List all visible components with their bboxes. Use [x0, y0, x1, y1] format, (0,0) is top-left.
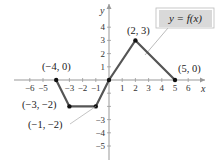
- point-label: (−4, 0): [42, 61, 71, 73]
- y-tick-label: −4: [95, 128, 105, 138]
- x-tick-label: −5: [38, 83, 48, 93]
- x-tick-label: 2: [133, 83, 138, 93]
- x-tick-label: −1: [91, 83, 101, 93]
- point-label: (2, 3): [127, 25, 150, 37]
- function-graph: xy −6−5−3−2−11234564321−3−4−5 y = f(x) (…: [0, 0, 219, 167]
- ticks: −6−5−3−2−11234564321−3−4−5: [25, 22, 191, 151]
- x-tick-label: −2: [78, 83, 88, 93]
- x-tick-label: 4: [160, 83, 165, 93]
- legend-label: y = f(x): [168, 12, 202, 25]
- y-tick-label: 2: [101, 49, 106, 59]
- y-tick-label: −3: [95, 115, 105, 125]
- data-point: [54, 78, 58, 82]
- point-label: (−1, −2): [28, 119, 63, 131]
- annotation-callout-line: [70, 106, 96, 124]
- y-axis-arrow-icon: [107, 4, 112, 9]
- data-point: [173, 78, 177, 82]
- point-label: (−3, −2): [22, 99, 57, 111]
- x-axis-arrow-icon: [200, 78, 205, 83]
- data-point: [107, 78, 111, 82]
- plot-line: [54, 38, 177, 108]
- y-tick-label: 3: [101, 35, 106, 45]
- x-tick-label: 6: [186, 83, 191, 93]
- y-tick-label: −5: [95, 141, 105, 151]
- data-point: [133, 38, 137, 42]
- function-line: [56, 40, 175, 106]
- x-axis-label: x: [200, 83, 206, 94]
- x-tick-label: 1: [120, 83, 125, 93]
- y-axis-label: y: [99, 5, 105, 16]
- x-tick-label: −6: [25, 83, 35, 93]
- point-label: (5, 0): [178, 63, 201, 75]
- x-tick-label: 3: [146, 83, 151, 93]
- data-point: [67, 104, 71, 108]
- x-tick-label: 5: [173, 83, 178, 93]
- legend: y = f(x): [145, 8, 214, 55]
- x-tick-label: −3: [65, 83, 75, 93]
- y-tick-label: 1: [101, 62, 106, 72]
- y-tick-label: 4: [101, 22, 106, 32]
